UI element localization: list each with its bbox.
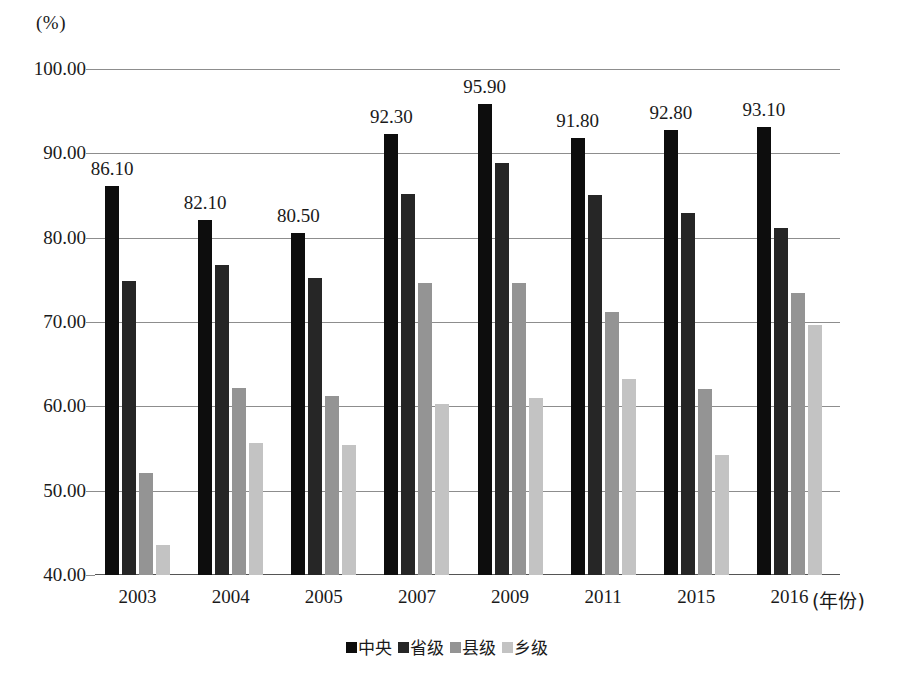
bar-group (95, 69, 188, 575)
bar (249, 443, 263, 575)
bar (774, 228, 788, 575)
bar (198, 220, 212, 575)
bar (105, 186, 119, 575)
y-axis-tick-label: 90.00 (0, 142, 86, 164)
legend-swatch-icon (502, 642, 513, 653)
legend-swatch-icon (450, 642, 461, 653)
legend-swatch-icon (398, 642, 409, 653)
bar (418, 283, 432, 575)
bar (512, 283, 526, 575)
bar (495, 163, 509, 575)
bar (605, 312, 619, 575)
legend-label: 县级 (462, 634, 496, 659)
bar (791, 293, 805, 575)
bar (698, 389, 712, 575)
bar (342, 445, 356, 575)
bar (478, 104, 492, 575)
y-axis-tick (86, 406, 95, 407)
bar-value-label: 80.50 (277, 205, 320, 227)
bar (139, 473, 153, 575)
x-axis-tick-label: 2011 (585, 586, 622, 608)
bar-value-label: 92.30 (370, 106, 413, 128)
bar-group (654, 69, 747, 575)
bar (384, 134, 398, 575)
y-axis-tick-label: 70.00 (0, 311, 86, 333)
bar-value-label: 82.10 (184, 192, 227, 214)
bar-value-label: 86.10 (91, 158, 134, 180)
y-axis-tick (86, 69, 95, 70)
y-axis-tick-label: 50.00 (0, 480, 86, 502)
bar (588, 195, 602, 575)
x-axis-tick-label: 2004 (212, 586, 250, 608)
bar-group (468, 69, 561, 575)
y-axis-unit-label: (%) (36, 12, 66, 34)
bar-group (374, 69, 467, 575)
y-axis-tick (86, 491, 95, 492)
legend-label: 中央 (358, 634, 392, 659)
bar-chart: (%) 100.0090.0080.0070.0060.0050.0040.00… (0, 0, 900, 678)
legend-label: 省级 (410, 634, 444, 659)
bar (435, 404, 449, 575)
x-axis-title: (年份) (812, 586, 865, 613)
bar (215, 265, 229, 575)
x-axis-tick-label: 2007 (398, 586, 436, 608)
bar-group (747, 69, 840, 575)
y-axis-tick-label: 40.00 (0, 564, 86, 586)
y-axis-tick-label: 60.00 (0, 395, 86, 417)
bar-group (188, 69, 281, 575)
x-axis-tick-label: 2016 (770, 586, 808, 608)
bar (232, 388, 246, 575)
x-axis-tick-label: 2005 (305, 586, 343, 608)
legend-label: 乡级 (514, 634, 548, 659)
x-axis-tick-label: 2003 (119, 586, 157, 608)
legend-item: 省级 (398, 634, 444, 659)
bar (529, 398, 543, 575)
legend-swatch-icon (346, 642, 357, 653)
bar-value-label: 95.90 (463, 76, 506, 98)
bar (156, 545, 170, 575)
bar-group (561, 69, 654, 575)
bar (291, 233, 305, 575)
bar-value-label: 93.10 (743, 99, 786, 121)
y-axis-tick-label: 80.00 (0, 227, 86, 249)
y-axis-tick (86, 575, 95, 576)
y-axis-tick (86, 238, 95, 239)
y-axis-tick (86, 153, 95, 154)
bar (664, 130, 678, 575)
bar (325, 396, 339, 575)
bar (808, 325, 822, 575)
bar-group (281, 69, 374, 575)
bar-value-label: 92.80 (649, 102, 692, 124)
x-axis-tick-label: 2009 (491, 586, 529, 608)
bar (308, 278, 322, 575)
chart-legend: 中央省级县级乡级 (0, 634, 900, 659)
legend-item: 县级 (450, 634, 496, 659)
bar (571, 138, 585, 575)
bar-value-label: 91.80 (556, 110, 599, 132)
plot-area (95, 69, 840, 575)
bar (622, 379, 636, 575)
y-axis-tick (86, 322, 95, 323)
bar (122, 281, 136, 575)
bar (715, 455, 729, 575)
bar (681, 213, 695, 575)
legend-item: 乡级 (502, 634, 548, 659)
legend-item: 中央 (346, 634, 392, 659)
x-axis-tick-label: 2015 (677, 586, 715, 608)
y-axis-tick-label: 100.00 (0, 58, 86, 80)
bar (757, 127, 771, 575)
bar (401, 194, 415, 575)
